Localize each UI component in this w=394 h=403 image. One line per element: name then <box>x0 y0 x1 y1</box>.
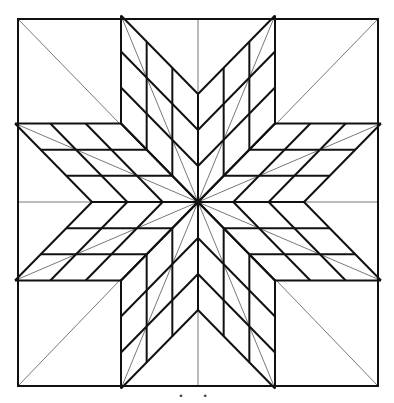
caption: • • <box>0 391 394 401</box>
center-point <box>196 200 201 205</box>
star-quilt-diagram <box>0 0 394 403</box>
